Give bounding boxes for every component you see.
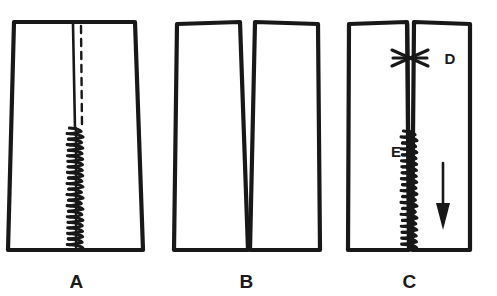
panel-b-left-piece-outline — [174, 22, 248, 250]
panel-c-seam-solid-line-inner — [413, 24, 414, 120]
panel-c-callout-d-label: D — [445, 50, 456, 67]
panel-c-callout-e-label: E — [391, 143, 401, 160]
sewing-diagram-svg: A B D E — [0, 0, 497, 296]
panel-b-right-piece-outline — [250, 22, 320, 250]
panel-a: A — [8, 22, 143, 292]
panel-c: D E C — [348, 22, 470, 292]
figure-root: A B D E — [0, 0, 497, 296]
panel-c-cross-basting-mark — [392, 50, 428, 66]
panel-c-label: C — [402, 271, 416, 292]
panel-a-seam-solid-line — [73, 24, 75, 129]
panel-c-direction-arrow-icon — [436, 163, 450, 230]
panel-a-basting-zigzag — [67, 128, 83, 250]
panel-b: B — [174, 22, 320, 292]
panel-a-label: A — [69, 271, 83, 292]
panel-c-seam-solid-line — [408, 24, 409, 133]
panel-a-seam-dashed-line — [81, 26, 82, 127]
panel-b-label: B — [239, 271, 252, 292]
